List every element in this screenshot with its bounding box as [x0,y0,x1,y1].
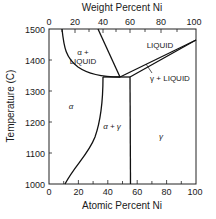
svg-text:20: 20 [70,17,80,27]
region-liquid: LIQUID [147,41,174,50]
svg-text:0: 0 [46,17,51,27]
svg-text:80: 80 [156,17,166,27]
svg-text:1000: 1000 [25,180,45,190]
top-axis-title: Weight Percent Ni [82,2,162,13]
svg-text:1400: 1400 [25,56,45,66]
svg-text:20: 20 [73,187,83,197]
svg-text:100: 100 [186,17,201,27]
region-alpha-liquid-2: LIQUID [70,57,97,66]
svg-text:40: 40 [98,17,108,27]
top-x-tick-labels: 0 20 40 60 80 100 [46,17,201,27]
region-gamma-liquid: γ + LIQUID [150,74,190,83]
region-gamma: γ [159,132,164,141]
phase-diagram: Weight Percent Ni 0 20 40 60 80 100 0 20… [0,0,216,219]
top-x-ticks [62,29,177,33]
region-alpha: α [69,102,74,111]
region-alpha-gamma: α + γ [103,122,122,131]
svg-text:0: 0 [46,187,51,197]
alpha-solvus [65,77,103,184]
alpha-solidus [62,29,120,77]
svg-text:80: 80 [162,187,172,197]
gamma-solvus [130,77,131,184]
svg-text:40: 40 [103,187,113,197]
bottom-x-ticks [64,180,182,184]
bottom-x-tick-labels: 0 20 40 60 80 100 [46,187,202,197]
svg-text:60: 60 [132,187,142,197]
svg-text:60: 60 [125,17,135,27]
svg-text:1500: 1500 [25,25,45,35]
alpha-liquidus [98,29,120,77]
bottom-axis-title: Atomic Percent Ni [82,200,162,211]
svg-text:1300: 1300 [25,87,45,97]
svg-text:1100: 1100 [26,149,45,159]
y-axis-title: Temperature (C) [5,70,16,143]
region-alpha-liquid-1: α + [77,48,89,57]
y-tick-labels: 1500 1400 1300 1200 1100 1000 [25,25,45,190]
svg-text:1200: 1200 [25,118,45,128]
svg-text:100: 100 [187,187,202,197]
